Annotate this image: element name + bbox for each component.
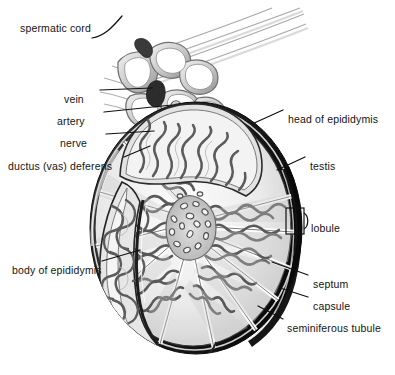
- testis-body: [90, 102, 302, 363]
- label-ductus-vas-deferens: ductus (vas) deferens: [8, 160, 112, 172]
- label-lobule: lobule: [311, 222, 340, 234]
- label-seminiferous-tubule: seminiferous tubule: [287, 322, 381, 334]
- label-spermatic-cord: spermatic cord: [20, 22, 91, 34]
- leader-head-of-epididymis: [252, 110, 283, 124]
- label-testis: testis: [310, 160, 335, 172]
- label-artery: artery: [57, 115, 85, 127]
- label-vein: vein: [64, 93, 84, 105]
- label-septum: septum: [313, 278, 348, 290]
- vein-lumen: [146, 81, 165, 107]
- anatomy-illustration: [0, 0, 395, 375]
- leader-spermatic-cord: [92, 16, 122, 38]
- label-capsule: capsule: [313, 300, 350, 312]
- label-body-of-epididymis: body of epididymis: [12, 264, 102, 276]
- label-head-of-epididymis: head of epididymis: [288, 113, 378, 125]
- label-nerve: nerve: [60, 137, 87, 149]
- testis-anatomy-figure: [0, 0, 395, 375]
